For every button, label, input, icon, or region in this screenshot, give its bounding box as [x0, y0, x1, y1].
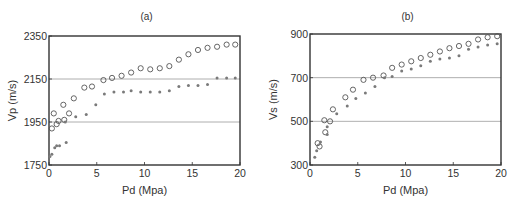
data-point-star	[112, 90, 115, 93]
chart-title: (a)	[140, 11, 152, 22]
data-point-star	[225, 76, 228, 79]
y-tick-label: 700	[290, 72, 308, 84]
data-point-star	[149, 90, 152, 93]
data-point-circle	[205, 45, 210, 50]
data-point-circle	[322, 118, 327, 123]
series-circles	[315, 34, 500, 149]
data-point-star	[94, 103, 97, 106]
data-point-circle	[399, 62, 404, 67]
data-point-circle	[475, 37, 480, 42]
data-point-star	[457, 54, 460, 57]
data-point-star	[85, 113, 88, 116]
data-point-circle	[350, 87, 355, 92]
y-tick-label: 900	[290, 28, 308, 40]
data-point-star	[158, 90, 161, 93]
data-point-star	[410, 67, 413, 70]
y-tick-label: 500	[290, 115, 308, 127]
data-point-star	[486, 43, 489, 46]
data-point-circle	[437, 49, 442, 54]
x-tick-label: 5	[94, 167, 100, 179]
data-point-star	[364, 91, 367, 94]
data-point-circle	[176, 57, 181, 62]
data-point-star	[326, 125, 329, 128]
data-point-star	[168, 89, 171, 92]
data-point-circle	[428, 52, 433, 57]
data-point-circle	[466, 41, 471, 46]
y-tick-label: 1950	[24, 116, 48, 128]
x-tick-label: 20	[495, 167, 507, 179]
data-point-star	[130, 89, 133, 92]
data-point-star	[50, 153, 53, 156]
x-tick-label: 15	[447, 167, 459, 179]
data-point-circle	[418, 55, 423, 60]
data-point-circle	[485, 35, 490, 40]
y-axis-label: Vp (m/s)	[6, 80, 18, 122]
data-point-star	[419, 64, 422, 67]
data-point-circle	[89, 84, 94, 89]
data-point-star	[373, 85, 376, 88]
figure: 051015201750195021502350(a)Pd (Mpa)Vp (m…	[0, 0, 514, 203]
plot-frame	[310, 34, 501, 165]
data-point-circle	[447, 46, 452, 51]
data-point-circle	[101, 77, 106, 82]
data-point-star	[55, 144, 58, 147]
x-tick-label: 15	[186, 167, 198, 179]
y-tick-label: 2350	[24, 30, 48, 42]
data-point-star	[177, 85, 180, 88]
series-stars	[48, 76, 236, 157]
x-tick-label: 10	[139, 167, 151, 179]
data-point-star	[234, 76, 237, 79]
data-point-star	[64, 121, 67, 124]
x-tick-label: 10	[400, 167, 412, 179]
data-point-star	[319, 141, 322, 144]
data-point-circle	[138, 66, 143, 71]
data-point-star	[391, 75, 394, 78]
data-point-star	[103, 93, 106, 96]
x-tick-label: 20	[234, 167, 246, 179]
data-point-circle	[233, 42, 238, 47]
data-point-circle	[82, 85, 87, 90]
data-point-star	[400, 70, 403, 73]
data-point-circle	[409, 59, 414, 64]
data-point-star	[467, 48, 470, 51]
data-point-star	[315, 149, 318, 152]
data-point-circle	[167, 64, 172, 69]
y-axis-label: Vs (m/s)	[267, 79, 279, 120]
x-axis-label: Pd (Mpa)	[383, 184, 428, 196]
y-tick-label: 300	[290, 159, 308, 171]
data-point-circle	[148, 67, 153, 72]
data-point-star	[313, 156, 316, 159]
chart-title: (b)	[401, 11, 413, 22]
x-axis-label: Pd (Mpa)	[122, 184, 167, 196]
data-point-star	[354, 97, 357, 100]
data-point-star	[196, 84, 199, 87]
data-point-star	[216, 76, 219, 79]
data-point-circle	[119, 73, 124, 78]
data-point-star	[187, 84, 190, 87]
plot-frame	[49, 36, 240, 165]
data-point-circle	[456, 43, 461, 48]
series-stars	[313, 42, 498, 159]
data-point-star	[58, 144, 61, 147]
data-point-circle	[390, 65, 395, 70]
data-point-circle	[61, 102, 66, 107]
data-point-circle	[214, 44, 219, 49]
data-point-star	[65, 141, 68, 144]
data-point-star	[346, 105, 349, 108]
data-point-star	[74, 115, 77, 118]
data-point-star	[383, 76, 386, 79]
data-point-circle	[66, 111, 71, 116]
data-point-star	[438, 58, 441, 61]
data-point-circle	[129, 70, 134, 75]
data-point-circle	[157, 66, 162, 71]
data-point-star	[139, 90, 142, 93]
data-point-circle	[109, 75, 114, 80]
data-point-star	[477, 46, 480, 49]
data-point-circle	[186, 52, 191, 57]
data-point-star	[429, 60, 432, 63]
panel-a-vp-chart: 051015201750195021502350(a)Pd (Mpa)Vp (m…	[6, 11, 246, 196]
data-point-star	[496, 42, 499, 45]
data-point-star	[335, 112, 338, 115]
y-tick-label: 1750	[24, 159, 48, 171]
data-point-star	[206, 83, 209, 86]
